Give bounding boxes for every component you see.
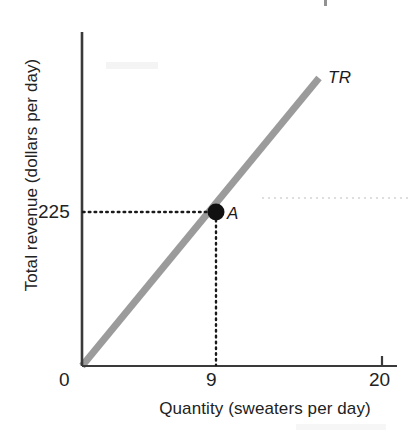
x-tick-label-20: 20: [369, 369, 390, 391]
series-label-tr: TR: [328, 68, 351, 88]
y-tick-label-225: 225: [38, 201, 70, 223]
y-axis-label: Total revenue (dollars per day): [22, 25, 42, 325]
data-point-label-a: A: [227, 204, 238, 224]
x-tick-label-9: 9: [206, 369, 217, 391]
series-line-tr: [82, 78, 319, 366]
data-point-a-marker: [208, 204, 225, 221]
chart-figure: Total revenue (dollars per day) Quantity…: [0, 0, 415, 437]
x-tick-label-0: 0: [59, 369, 70, 391]
x-axis-label: Quantity (sweaters per day): [115, 399, 415, 419]
